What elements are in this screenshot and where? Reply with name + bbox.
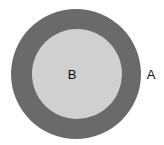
nested-circles-diagram: B A <box>0 0 164 145</box>
label-a: A <box>147 67 156 82</box>
inner-circle-b <box>32 29 122 119</box>
label-b: B <box>68 67 77 82</box>
